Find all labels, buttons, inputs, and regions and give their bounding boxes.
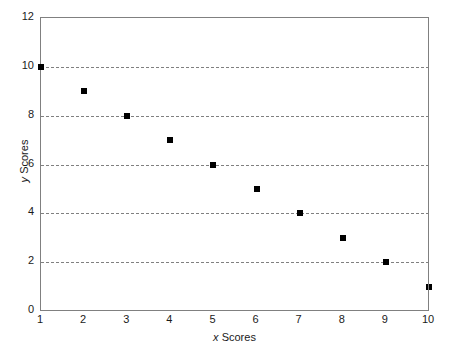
y-tick-label-12: 12	[0, 11, 34, 22]
data-point	[426, 284, 432, 290]
x-tick-label-6: 6	[241, 313, 271, 325]
x-tick-label-3: 3	[111, 313, 141, 325]
x-tick-label-8: 8	[327, 313, 357, 325]
x-tick-label-1: 1	[25, 313, 55, 325]
scatter-plot-figure: 024681012 12345678910 x Scores y Scores	[0, 0, 449, 359]
gridline-y-10	[41, 67, 429, 68]
data-point	[297, 210, 303, 216]
data-point	[210, 162, 216, 168]
gridline-y-8	[41, 116, 429, 117]
gridline-y-2	[41, 262, 429, 263]
data-point	[167, 137, 173, 143]
x-axis-title-text: Scores	[222, 331, 256, 343]
x-tick-label-7: 7	[284, 313, 314, 325]
gridline-y-4	[41, 213, 429, 214]
y-axis-title: y Scores	[18, 91, 30, 231]
x-tick-label-5: 5	[197, 313, 227, 325]
data-point	[124, 113, 130, 119]
data-point	[81, 88, 87, 94]
data-point	[254, 186, 260, 192]
x-axis-title-variable: x	[213, 331, 219, 343]
x-tick-label-10: 10	[413, 313, 443, 325]
y-tick-label-2: 2	[0, 255, 34, 266]
gridline-y-6	[41, 165, 429, 166]
x-axis-title: x Scores	[40, 331, 429, 343]
y-axis-title-variable: y	[18, 177, 30, 183]
plot-area	[40, 17, 429, 311]
x-axis-line	[40, 310, 429, 311]
x-tick-label-9: 9	[370, 313, 400, 325]
y-tick-label-10: 10	[0, 60, 34, 71]
x-tick-label-2: 2	[68, 313, 98, 325]
x-tick-label-4: 4	[154, 313, 184, 325]
data-point	[38, 64, 44, 70]
data-point	[383, 259, 389, 265]
data-point	[340, 235, 346, 241]
y-axis-title-text: Scores	[18, 140, 30, 174]
plot-right-border	[428, 17, 429, 311]
